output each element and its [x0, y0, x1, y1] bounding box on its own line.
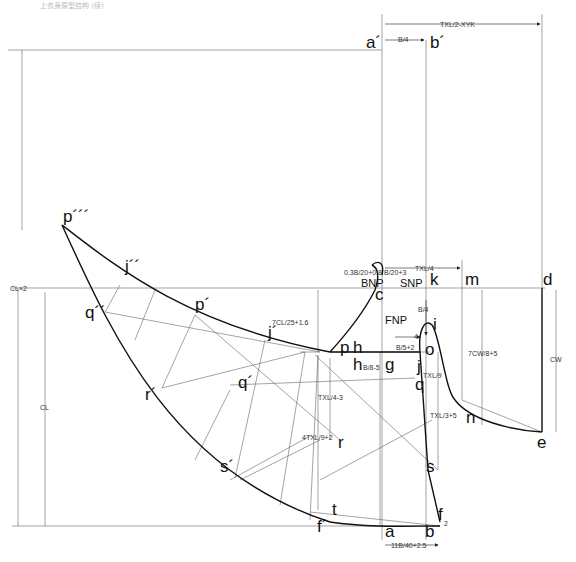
grid-4 [235, 340, 265, 478]
point-a: a [385, 522, 395, 541]
dim-txl4-3: TXL/4-3 [318, 394, 343, 401]
diag-2 [320, 420, 432, 480]
dim-txl9: TXL/9 [423, 372, 442, 379]
point-f1: f´ [317, 517, 327, 536]
point-k: k [430, 270, 439, 289]
yoke-top-curve [62, 225, 330, 352]
dim-four: 4 [414, 333, 418, 340]
yoke-bottom-curve [62, 225, 330, 522]
grid-5 [280, 352, 305, 505]
point-h-lower: h [353, 355, 362, 374]
diag-4 [240, 440, 320, 480]
dim-two: 2 [444, 520, 448, 527]
point-j: j [416, 357, 421, 376]
dim-b4-top: B/4 [398, 36, 409, 43]
dim-cw: CW [550, 356, 562, 363]
dim-cl2: CL×2 [10, 285, 27, 292]
point-i: i [433, 315, 437, 334]
point-s: s [426, 457, 435, 476]
point-n: n [466, 408, 475, 427]
point-labels: a´ b´ p´´´ j´´ q´´ p´ j´ q´ r´ s´ f´ c k… [63, 33, 552, 541]
point-a-prime: a´ [366, 33, 381, 52]
dim-cl-ratio: 7CL/25+1.6 [272, 319, 308, 326]
dim-bottom-width: 11B/40+2.5 [391, 542, 427, 549]
point-p: p [340, 338, 349, 357]
dim-txl3-5: TXL/3+5 [430, 412, 457, 419]
diag-8 [230, 435, 312, 480]
label-fnp: FNP [385, 314, 407, 326]
dim-cw-ratio: 7CW/8+5 [468, 350, 497, 357]
grid-1 [135, 290, 155, 340]
point-g: g [385, 355, 394, 374]
dim-top-width: TXL/2-XYK [440, 21, 475, 28]
label-snp: SNP [400, 277, 423, 289]
point-o: o [425, 340, 434, 359]
dim-neck-w1: 0.3B/20+0.8 [344, 269, 382, 276]
point-b-prime: b´ [430, 33, 445, 52]
diag-6 [162, 352, 305, 388]
point-m: m [465, 270, 479, 289]
j2-q2 [105, 285, 120, 312]
dim-b4-mid: B/4 [418, 306, 429, 313]
dim-four-txl: 4TXL/9+2 [302, 434, 333, 441]
point-q1: q´ [238, 373, 253, 392]
point-d: d [543, 270, 552, 289]
pattern-diagram: a´ b´ p´´´ j´´ q´´ p´ j´ q´ r´ s´ f´ c k… [0, 0, 576, 562]
dim-neck-w2: B/20+3 [384, 269, 406, 276]
diag-3 [230, 378, 415, 385]
point-s1: s´ [220, 457, 234, 476]
point-j2: j´´ [124, 257, 140, 276]
point-f: f [438, 505, 443, 524]
point-t: t [332, 500, 337, 519]
point-p3: p´´´ [63, 207, 89, 226]
point-p1: p´ [195, 295, 210, 314]
label-bnp: BNP [361, 277, 384, 289]
dim-cl: CL [40, 404, 49, 411]
point-e: e [537, 433, 546, 452]
landmark-labels: BNP SNP FNP [361, 277, 423, 326]
point-b: b [425, 522, 434, 541]
hem-curve-guide [310, 512, 440, 526]
dim-b5: B/5+2 [396, 344, 415, 351]
point-r1: r´ [145, 385, 156, 404]
dim-b8: B/8-5 [363, 364, 380, 371]
point-q2: q´´ [85, 303, 106, 322]
grid-3 [195, 390, 230, 460]
point-r: r [338, 433, 344, 452]
dim-txl4: TXL/4 [415, 265, 434, 272]
